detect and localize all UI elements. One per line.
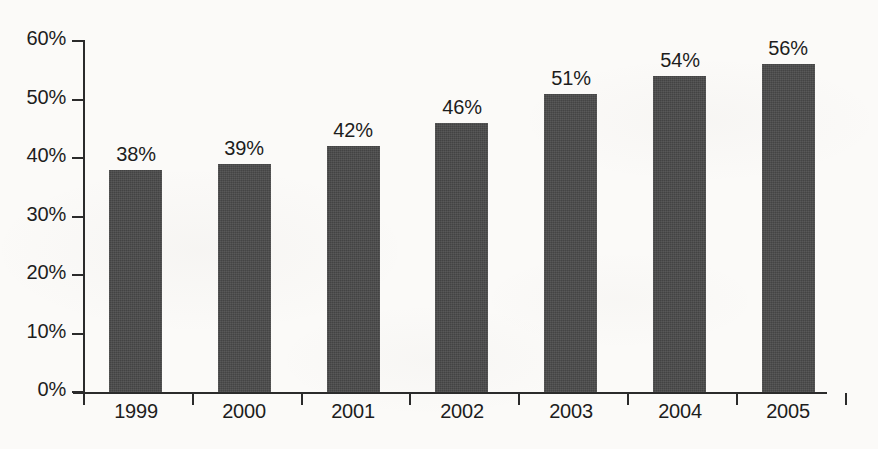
y-axis-tick-label: 10% [0,320,66,343]
bar [218,164,271,392]
x-axis-category-label: 2001 [293,400,413,423]
x-axis-category-label: 1999 [76,400,196,423]
y-axis-tick [72,216,83,218]
y-axis-tick-label: 40% [0,144,66,167]
bar [327,146,380,392]
y-axis-tick-label: 50% [0,86,66,109]
y-axis-tick-label: 30% [0,203,66,226]
x-axis-category-label: 2004 [620,400,740,423]
y-axis-tick-label: 20% [0,261,66,284]
x-axis-category-label: 2005 [728,400,848,423]
y-axis-tick [72,40,83,42]
x-axis-category-label: 2000 [184,400,304,423]
bar-value-label: 56% [728,37,848,60]
bar-value-label: 39% [184,137,304,160]
bar-value-label: 42% [293,119,413,142]
y-axis-tick [72,99,83,101]
bar [762,64,815,392]
bar [544,94,597,392]
bar-value-label: 38% [76,143,196,166]
bar [435,123,488,392]
x-axis-line [73,392,827,394]
y-axis-tick-label: 60% [0,27,66,50]
bar [653,76,706,392]
y-axis-tick [72,274,83,276]
x-axis-category-label: 2002 [402,400,522,423]
bar-value-label: 51% [511,67,631,90]
bar-chart: 0%10%20%30%40%50%60% 38%39%42%46%51%54%5… [0,0,878,449]
bar-value-label: 54% [620,49,740,72]
y-axis-tick-label: 0% [0,378,66,401]
bar-value-label: 46% [402,96,522,119]
y-axis-line [83,40,85,395]
x-axis-category-label: 2003 [511,400,631,423]
bar [109,170,162,392]
y-axis-tick [72,391,83,393]
y-axis-tick [72,333,83,335]
